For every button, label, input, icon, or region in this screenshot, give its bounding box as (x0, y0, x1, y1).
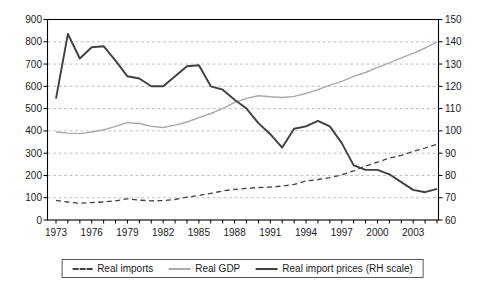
svg-text:1988: 1988 (223, 227, 246, 238)
legend-item-real-gdp: Real GDP (168, 263, 240, 274)
svg-text:1997: 1997 (331, 227, 354, 238)
dashed-line-sample-icon (72, 268, 92, 270)
chart-legend: Real imports Real GDP Real import prices… (61, 259, 424, 278)
svg-text:1973: 1973 (45, 227, 68, 238)
svg-text:600: 600 (25, 81, 42, 92)
legend-label-real-gdp: Real GDP (195, 263, 240, 274)
svg-text:1979: 1979 (116, 227, 139, 238)
svg-text:90: 90 (445, 148, 457, 159)
svg-text:400: 400 (25, 125, 42, 136)
svg-text:1991: 1991 (259, 227, 282, 238)
svg-text:60: 60 (445, 215, 457, 226)
svg-text:130: 130 (445, 59, 462, 70)
svg-text:300: 300 (25, 148, 42, 159)
svg-text:110: 110 (445, 103, 461, 114)
svg-text:900: 900 (25, 14, 42, 25)
chart-svg: 0100200300400500600700800900607080901001… (0, 0, 485, 287)
svg-text:2000: 2000 (366, 227, 389, 238)
svg-text:100: 100 (445, 125, 462, 136)
svg-text:1982: 1982 (152, 227, 175, 238)
svg-text:2003: 2003 (402, 227, 425, 238)
svg-text:1976: 1976 (81, 227, 104, 238)
dark-line-sample-icon (255, 268, 277, 270)
legend-label-real-imports: Real imports (97, 263, 153, 274)
gray-line-sample-icon (168, 268, 190, 270)
chart-figure: 0100200300400500600700800900607080901001… (0, 0, 485, 287)
svg-text:700: 700 (25, 59, 42, 70)
svg-text:100: 100 (25, 192, 42, 203)
svg-text:80: 80 (445, 170, 457, 181)
svg-text:0: 0 (36, 215, 42, 226)
svg-text:500: 500 (25, 103, 42, 114)
legend-item-real-imports: Real imports (72, 263, 153, 274)
svg-text:120: 120 (445, 81, 462, 92)
svg-text:140: 140 (445, 36, 462, 47)
svg-text:70: 70 (445, 192, 457, 203)
legend-item-import-prices: Real import prices (RH scale) (255, 263, 413, 274)
svg-text:200: 200 (25, 170, 42, 181)
svg-text:800: 800 (25, 36, 42, 47)
svg-text:1985: 1985 (188, 227, 211, 238)
svg-text:1994: 1994 (295, 227, 318, 238)
legend-label-import-prices: Real import prices (RH scale) (282, 263, 413, 274)
svg-text:150: 150 (445, 14, 462, 25)
